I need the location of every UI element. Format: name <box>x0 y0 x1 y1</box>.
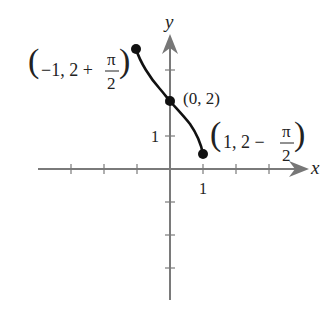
svg-text:(: ( <box>210 115 221 153</box>
y-axis-label: y <box>163 11 174 32</box>
graph-canvas: y x 1 1 ( −1, 2 + π 2 ) (0, 2) ( 1, 2 − … <box>0 0 334 315</box>
svg-text:π: π <box>107 50 116 69</box>
svg-text:1, 2 −: 1, 2 − <box>223 132 265 152</box>
label-point-left: ( −1, 2 + π 2 ) <box>28 42 130 93</box>
label-point-right: ( 1, 2 − π 2 ) <box>210 115 305 165</box>
x-axis-label: x <box>310 157 320 178</box>
svg-text:2: 2 <box>107 74 116 93</box>
svg-text:(: ( <box>28 42 39 80</box>
point-right <box>198 149 208 159</box>
y-tick-label-1: 1 <box>151 128 159 145</box>
x-tick-label-1: 1 <box>199 180 207 197</box>
svg-text:): ) <box>119 42 130 80</box>
svg-text:−1, 2 +: −1, 2 + <box>41 60 93 80</box>
point-left <box>131 44 141 54</box>
svg-text:): ) <box>294 115 305 153</box>
graph-figure: y x 1 1 ( −1, 2 + π 2 ) (0, 2) ( 1, 2 − … <box>0 0 334 315</box>
point-mid <box>165 96 175 106</box>
svg-text:π: π <box>282 122 291 141</box>
svg-text:2: 2 <box>282 146 291 165</box>
label-point-mid: (0, 2) <box>183 89 220 108</box>
